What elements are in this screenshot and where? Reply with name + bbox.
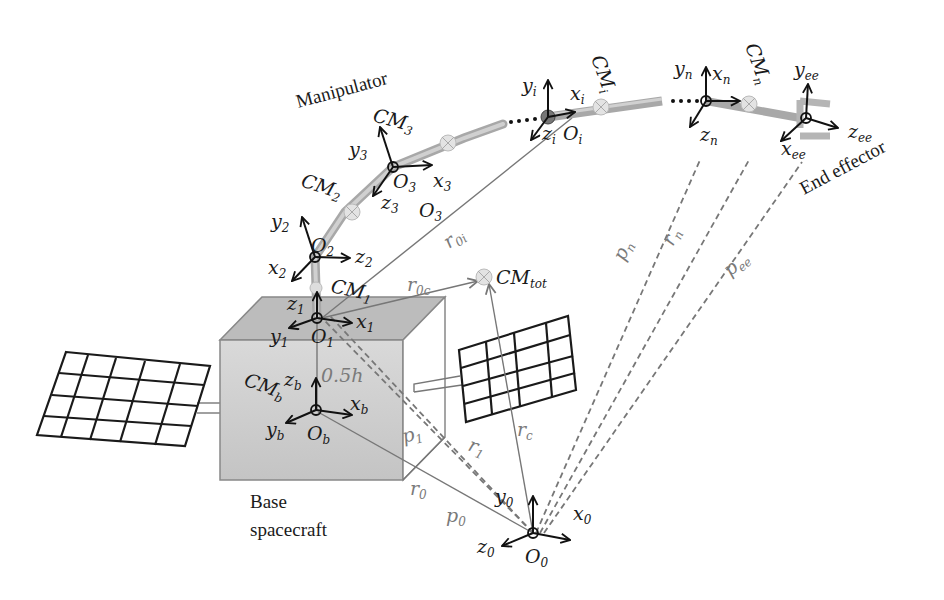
pee-vector [544,162,802,533]
oi-label: Oi [563,122,583,147]
o3-label: O3 [393,170,417,195]
r1-label: r1 [465,433,489,462]
p0-label: p0 [446,504,466,529]
end-effector-gripper [800,100,830,136]
yn-label: yn [673,57,692,82]
pn-label: pn [608,236,639,265]
y2-label: y2 [270,210,289,235]
o3-extra-label: O3 [419,199,443,224]
cm-tot-marker [476,269,492,285]
x2-label: x2 [268,256,286,281]
half-height-label: 0.5h [321,364,363,386]
cm-n-label: CMn [738,40,776,88]
rc-label: rc [517,418,533,443]
xee-label: xee [781,137,806,162]
zi-label: zi [541,122,556,147]
cm-3-label: CM3 [370,104,417,139]
base-label-line2: spacecraft [250,519,328,540]
z2-label: z2 [354,245,373,270]
pn-vector [536,160,700,533]
xn-label: xn [712,62,730,87]
cm-2-marker [344,204,360,220]
cm-i-label: CMi [584,52,620,96]
zee-label: zee [847,120,872,145]
rn-label: rn [657,224,687,250]
yi-label: yi [521,74,537,99]
pee-label: pee [718,246,754,282]
manipulator-diagram: Manipulator End effector Base spacecraft… [0,0,944,600]
o0-label: O0 [525,545,549,570]
zn-label: zn [699,123,718,148]
z0-label: z0 [476,535,495,560]
end-effector-label: End effector [796,136,890,199]
base-label-line1: Base [250,491,287,512]
r0i-label: r0i [439,222,470,254]
cm-2-label: CM2 [298,169,345,206]
cm-n-marker [741,96,757,112]
r0c-label: r0c [407,273,431,298]
r0-label: r0 [410,477,427,502]
xi-label: xi [570,82,585,107]
yee-label: yee [793,58,819,83]
y3-label: y3 [348,138,368,163]
z3-label: z3 [380,191,399,216]
y0-label: y0 [494,485,514,510]
cm-i-marker [593,99,609,115]
x3-label: x3 [433,169,452,194]
cm-tot-label: CMtot [496,266,547,291]
cm-3-marker [440,135,456,151]
z1-label: z1 [286,292,305,317]
left-solar-panel [37,352,220,446]
x0-label: x0 [573,502,592,527]
